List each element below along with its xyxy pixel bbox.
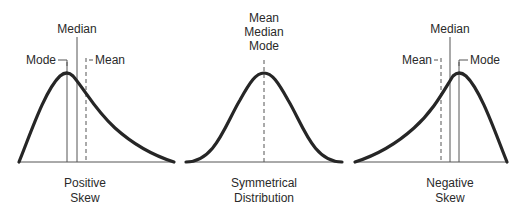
mode-leader — [58, 60, 67, 66]
mode-leader — [459, 60, 468, 66]
positive-skew-curve — [19, 73, 174, 162]
mean-label: Mean — [402, 53, 432, 67]
skewness-diagram: Median Mode Mean Positive Skew Mean Medi… — [0, 0, 524, 217]
mean-label: Mean — [249, 11, 279, 25]
caption-line2: Skew — [70, 191, 100, 205]
median-label: Median — [430, 22, 469, 36]
median-label: Median — [57, 22, 96, 36]
mean-label: Mean — [95, 53, 125, 67]
mode-label: Mode — [249, 39, 279, 53]
mode-label: Mode — [470, 53, 500, 67]
negative-skew-curve — [355, 73, 507, 162]
caption-line1: Negative — [426, 176, 474, 190]
symmetric-panel: Mean Median Mode Symmetrical Distributio… — [185, 11, 343, 205]
caption-line2: Skew — [435, 191, 465, 205]
caption-line1: Positive — [64, 176, 106, 190]
mode-label: Mode — [26, 53, 56, 67]
caption-line1: Symmetrical — [231, 176, 297, 190]
caption-line2: Distribution — [234, 191, 294, 205]
median-label: Median — [244, 25, 283, 39]
positive-skew-panel: Median Mode Mean Positive Skew — [18, 22, 175, 205]
negative-skew-panel: Median Mean Mode Negative Skew — [354, 22, 508, 205]
